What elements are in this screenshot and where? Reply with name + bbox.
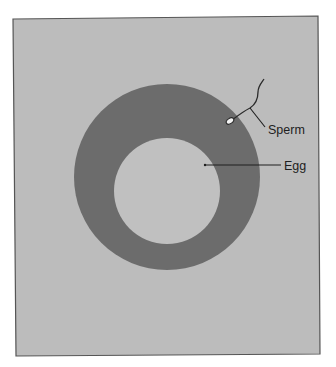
egg-label: Egg bbox=[284, 159, 306, 173]
egg-inner-cytoplasm bbox=[114, 138, 220, 244]
sperm-label: Sperm bbox=[268, 123, 305, 137]
egg-sperm-diagram: Sperm Egg bbox=[0, 0, 336, 367]
egg-leader-dot bbox=[204, 164, 206, 166]
